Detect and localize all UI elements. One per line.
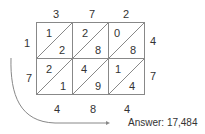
bottom-digit: 8	[90, 103, 96, 115]
right-digit: 7	[150, 70, 156, 82]
cell-tens: 0	[114, 27, 120, 39]
left-digit: 1	[24, 37, 30, 49]
cell-tens: 2	[46, 63, 52, 75]
top-digit: 7	[89, 8, 95, 20]
lattice-diagram: 3 7 2 1 7 4 7 1 2 2 8 0 8 2 1 4 9 1 4 4 …	[0, 0, 205, 134]
top-digit: 3	[53, 8, 59, 20]
cell-ones: 8	[130, 44, 136, 56]
cell-ones: 4	[129, 80, 135, 92]
top-digit: 2	[123, 8, 129, 20]
cell-tens: 1	[46, 27, 52, 39]
cell-ones: 2	[59, 44, 65, 56]
right-digit: 4	[150, 35, 156, 47]
bottom-digit: 4	[54, 103, 60, 115]
bottom-digit: 4	[124, 103, 130, 115]
cell-tens: 1	[115, 63, 121, 75]
left-digit: 7	[26, 72, 32, 84]
cell-ones: 8	[95, 44, 101, 56]
cell-ones: 9	[95, 80, 101, 92]
cell-tens: 4	[81, 63, 87, 75]
cell-ones: 1	[60, 80, 66, 92]
answer-label: Answer: 17,484	[128, 117, 198, 128]
cell-tens: 2	[82, 27, 88, 39]
